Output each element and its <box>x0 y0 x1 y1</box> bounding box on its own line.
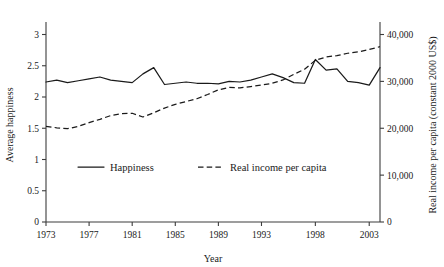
left-tick-label: 2.5 <box>27 61 39 71</box>
right-tick-label: 40,000 <box>387 30 413 40</box>
series-line-happiness <box>46 60 380 86</box>
x-tick-label: 1993 <box>252 230 271 240</box>
right-tick-label: 0 <box>387 217 392 227</box>
x-tick-label: 1977 <box>80 230 99 240</box>
left-axis-title: Average happiness <box>4 87 15 162</box>
figure-container: 00.511.522.53 Average happiness 010,0002… <box>0 0 444 267</box>
series-line-real-income-per-capita <box>46 47 380 129</box>
left-tick-label: 0 <box>34 217 39 227</box>
right-axis: 010,00020,00030,00040,000 Real income pe… <box>380 22 439 227</box>
right-axis-ticks: 010,00020,00030,00040,000 <box>380 30 413 227</box>
x-axis: 19731977198119851989199319982003 Year <box>37 222 381 264</box>
legend-label-0: Happiness <box>110 162 154 173</box>
right-tick-label: 20,000 <box>387 124 413 134</box>
x-axis-ticks: 19731977198119851989199319982003 <box>37 222 379 240</box>
x-tick-label: 1998 <box>306 230 325 240</box>
left-tick-label: 2 <box>34 92 39 102</box>
line-chart: 00.511.522.53 Average happiness 010,0002… <box>0 0 444 267</box>
right-tick-label: 30,000 <box>387 77 413 87</box>
x-tick-label: 1989 <box>209 230 228 240</box>
left-tick-label: 0.5 <box>27 186 39 196</box>
chart-legend: HappinessReal income per capita <box>78 162 327 173</box>
x-tick-label: 1985 <box>166 230 185 240</box>
x-tick-label: 1981 <box>123 230 142 240</box>
left-tick-label: 1.5 <box>27 124 39 134</box>
left-tick-label: 3 <box>34 30 39 40</box>
right-axis-title: Real income per capita (constant 2000 US… <box>427 36 439 213</box>
legend-label-1: Real income per capita <box>230 162 327 173</box>
left-tick-label: 1 <box>34 155 39 165</box>
x-axis-title: Year <box>204 253 223 264</box>
series-layer <box>46 47 380 129</box>
cropped-caption-artifact <box>0 0 444 9</box>
right-tick-label: 10,000 <box>387 171 413 181</box>
x-tick-label: 2003 <box>360 230 379 240</box>
left-axis: 00.511.522.53 Average happiness <box>4 22 46 227</box>
x-tick-label: 1973 <box>37 230 56 240</box>
left-axis-ticks: 00.511.522.53 <box>27 30 46 228</box>
